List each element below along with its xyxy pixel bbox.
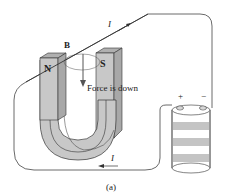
current-label-top: I (107, 19, 112, 29)
current-arrow-bottom-head (98, 164, 104, 168)
battery-negative-label: − (201, 91, 206, 101)
field-label: B (64, 40, 70, 50)
battery-band-1 (172, 122, 210, 130)
south-pole-label: S (100, 58, 106, 69)
battery-positive-label: + (178, 91, 183, 101)
current-arrow-top-head (126, 23, 131, 27)
magnet-force-diagram: N S B Force is down I I + − (a) (0, 0, 230, 194)
current-arrow-top (118, 25, 128, 31)
force-label: Force is down (87, 83, 138, 93)
battery-band-3 (172, 154, 210, 162)
north-pole-label: N (44, 63, 52, 74)
battery (172, 105, 210, 173)
current-label-bottom: I (110, 153, 115, 163)
figure-caption: (a) (106, 182, 116, 192)
magnetic-field-loop (64, 54, 100, 70)
battery-band-2 (172, 138, 210, 146)
force-arrow-head (80, 80, 86, 87)
